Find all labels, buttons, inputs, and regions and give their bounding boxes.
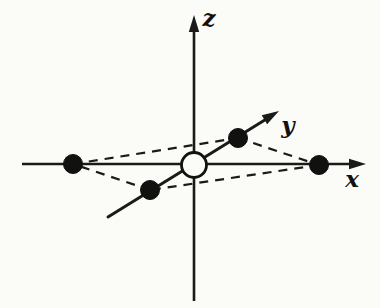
axes-lattice-diagram: xzy [0, 0, 380, 308]
atom-right-x [310, 156, 329, 175]
atom-upper-y [229, 129, 248, 148]
axis-label-z: z [201, 4, 216, 31]
figure-canvas: xzy [0, 0, 380, 308]
axis-label-y: y [280, 111, 296, 138]
axis-label-x: x [344, 165, 359, 192]
atom-center [182, 153, 207, 178]
atom-left-x [64, 155, 83, 174]
atom-lower-y [141, 181, 160, 200]
